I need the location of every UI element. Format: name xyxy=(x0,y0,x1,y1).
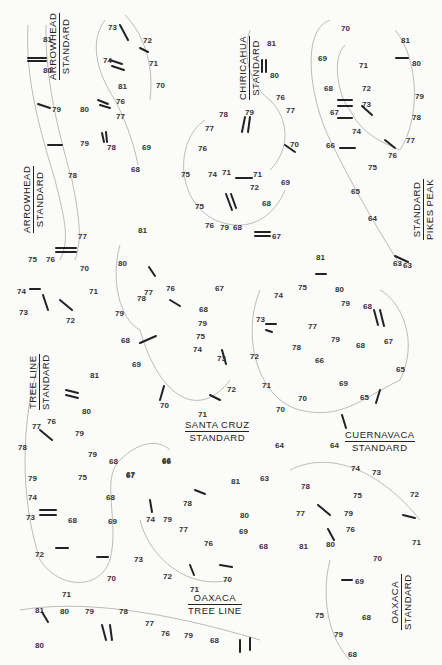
band-number-label: 73 xyxy=(256,316,265,324)
band-number-label: 70 xyxy=(107,575,116,583)
band-number-label: 68 xyxy=(324,85,333,93)
band-number-label: 69 xyxy=(142,144,151,152)
panel-title-line1: SANTA CRUZ xyxy=(185,420,249,432)
panel-title-line1: CHIRICAHUA xyxy=(238,36,250,100)
band-number-label: 69 xyxy=(108,518,117,526)
band-number-label: 72 xyxy=(66,317,75,325)
band-number-label: 79 xyxy=(80,140,89,148)
panel-title-line2: STANDARD xyxy=(34,166,45,233)
band-number-label: 81 xyxy=(267,40,276,48)
band-number-label: 78 xyxy=(119,608,128,616)
band-number-label: 71 xyxy=(62,591,71,599)
band-number-label: 72 xyxy=(227,386,236,394)
band-number-label: 77 xyxy=(308,323,317,331)
band-number-label: 79 xyxy=(198,320,207,328)
band-number-label: 71 xyxy=(253,171,262,179)
panel-title-line1: ARROWHEAD xyxy=(48,13,60,80)
band-number-label: 77 xyxy=(116,113,125,121)
band-number-label: 78 xyxy=(412,114,421,122)
band-number-label: 76 xyxy=(46,256,55,264)
band-number-label: 75 xyxy=(353,492,362,500)
band-number-label: 72 xyxy=(410,491,419,499)
band-number-label: 81 xyxy=(138,227,147,235)
panel-title-cuernavaca-standard: CUERNAVACASTANDARD xyxy=(345,430,415,453)
band-number-label: 68 xyxy=(348,651,357,659)
band-number-label: 71 xyxy=(89,288,98,296)
band-number-label: 79 xyxy=(85,608,94,616)
band-number-label: 70 xyxy=(373,555,382,563)
band-number-label: 76 xyxy=(205,222,214,230)
band-number-label: 76 xyxy=(116,98,125,106)
band-number-label: 73 xyxy=(362,101,371,109)
band-number-label: 69 xyxy=(239,528,248,536)
band-number-label: 79 xyxy=(163,516,172,524)
band-number-label: 69 xyxy=(281,179,290,187)
band-number-label: 66 xyxy=(326,142,335,150)
band-number-label: 75 xyxy=(195,203,204,211)
panel-title-line2: STANDARD xyxy=(60,13,71,80)
band-number-label: 80 xyxy=(270,72,279,80)
band-number-label: 73 xyxy=(108,24,117,32)
band-number-label: 75 xyxy=(196,333,205,341)
band-number-label: 72 xyxy=(35,551,44,559)
chromosome-band-drawing xyxy=(0,0,442,665)
panel-title-tree-line-standard: TREE LINESTANDARD xyxy=(28,354,51,410)
band-number-label: 69 xyxy=(132,361,141,369)
band-number-label: 81 xyxy=(90,372,99,380)
chromosome-figure: 8180797877737274717081807677797869688180… xyxy=(0,0,442,665)
band-number-label: 68 xyxy=(68,517,77,525)
panel-title-line1: CUERNAVACA xyxy=(345,430,415,442)
band-number-label: 74 xyxy=(351,465,360,473)
band-number-label: 66 xyxy=(315,357,324,365)
band-number-label: 76 xyxy=(198,145,207,153)
panel-title-line1: TREE LINE xyxy=(28,354,40,410)
band-number-label: 65 xyxy=(351,188,360,196)
band-number-label: 78 xyxy=(137,295,146,303)
band-number-label: 64 xyxy=(368,215,377,223)
band-number-label: 78 xyxy=(18,444,27,452)
band-number-label: 70 xyxy=(290,141,299,149)
band-number-label: 77 xyxy=(78,233,87,241)
band-number-label: 79 xyxy=(115,310,124,318)
band-number-label: 68 xyxy=(109,458,118,466)
panel-title-standard-pikes-peak: STANDARDPIKES PEAK xyxy=(412,179,435,240)
band-number-label: 68 xyxy=(210,637,219,645)
band-number-label: 68 xyxy=(356,342,365,350)
band-number-label: 80 xyxy=(82,408,91,416)
band-number-label: 71 xyxy=(222,169,231,177)
band-number-label: 71 xyxy=(198,411,207,419)
band-number-label: 74 xyxy=(28,494,37,502)
band-number-label: 80 xyxy=(240,512,249,520)
band-number-label: 77 xyxy=(406,137,415,145)
band-number-label: 70 xyxy=(298,395,307,403)
panel-title-line2: STANDARD xyxy=(250,36,261,100)
band-number-label: 77 xyxy=(286,107,295,115)
panel-title-line2: STANDARD xyxy=(40,354,51,410)
band-number-label: 75 xyxy=(181,171,190,179)
band-number-label: 80 xyxy=(335,286,344,294)
band-number-label: 71 xyxy=(359,62,368,70)
band-number-label: 69 xyxy=(339,380,348,388)
panel-title-arrowhead-standard-1: ARROWHEADSTANDARD xyxy=(48,13,71,80)
band-number-label: 65 xyxy=(360,394,369,402)
band-number-label: 78 xyxy=(301,483,310,491)
band-number-label: 75 xyxy=(315,612,324,620)
band-number-label: 78 xyxy=(68,172,77,180)
band-number-label: 69 xyxy=(318,55,327,63)
band-number-label: 67 xyxy=(126,472,135,480)
band-number-label: 76 xyxy=(204,540,213,548)
band-number-label: 76 xyxy=(166,285,175,293)
band-number-label: 77 xyxy=(179,526,188,534)
panel-title-line1: OAXACA xyxy=(188,593,242,605)
band-number-label: 75 xyxy=(368,164,377,172)
band-number-label: 74 xyxy=(17,288,26,296)
band-number-label: 80 xyxy=(412,60,421,68)
band-number-label: 80 xyxy=(326,541,335,549)
band-number-label: 77 xyxy=(145,620,154,628)
band-number-label: 72 xyxy=(362,85,371,93)
band-number-label: 70 xyxy=(276,406,285,414)
band-number-label: 72 xyxy=(143,37,152,45)
band-number-label: 68 xyxy=(233,224,242,232)
band-number-label: 63 xyxy=(260,475,269,483)
panel-title-line2: STANDARD xyxy=(345,442,415,453)
